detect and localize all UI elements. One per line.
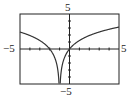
curve-left-branch	[20, 32, 59, 83]
y-min-label: −5	[60, 86, 72, 97]
y-max-label: 5	[65, 2, 71, 13]
x-max-label: 5	[121, 43, 127, 54]
x-min-label: −5	[3, 43, 15, 54]
